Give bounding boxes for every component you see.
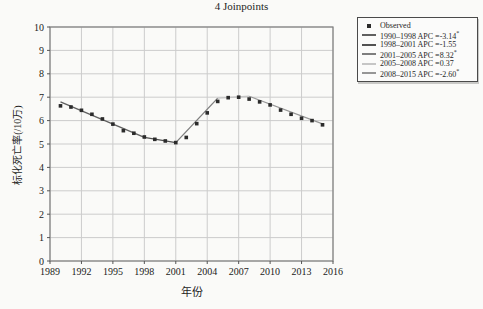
observed-point	[300, 116, 304, 120]
observed-point	[69, 105, 73, 109]
legend-label: Observed	[380, 21, 411, 30]
significance-asterisk: *	[456, 68, 459, 74]
observed-point	[226, 96, 230, 100]
observed-point	[268, 103, 272, 107]
joinpoint-figure: 4 Joinpoints 标化死亡率(/10万) 198919921995199…	[0, 0, 483, 309]
legend-label: 2001–2005 APC =8.32*	[380, 49, 457, 60]
significance-asterisk: *	[454, 49, 457, 55]
observed-point	[90, 112, 94, 116]
x-tick-label: 2004	[197, 266, 217, 277]
legend-label: 1998–2001 APC =-1.55	[380, 40, 456, 49]
observed-point	[111, 122, 115, 126]
y-tick-label: 9	[39, 45, 44, 56]
observed-point	[289, 112, 293, 116]
x-tick-label: 2001	[166, 266, 186, 277]
x-tick-label: 1989	[40, 266, 60, 277]
x-tick-label: 2016	[323, 266, 343, 277]
observed-point	[310, 119, 314, 123]
y-tick-label: 0	[39, 256, 44, 267]
observed-point	[195, 122, 199, 126]
apc-segment	[144, 137, 175, 142]
y-tick-label: 8	[39, 68, 44, 79]
observed-point	[237, 95, 241, 99]
observed-point	[174, 141, 178, 145]
line-swatch-icon	[362, 72, 376, 74]
x-tick-label: 1998	[134, 266, 154, 277]
legend-box: Observed1990–1998 APC =-3.14*1998–2001 A…	[357, 17, 478, 82]
observed-point	[205, 111, 209, 115]
y-tick-label: 5	[39, 139, 44, 150]
y-tick-label: 4	[39, 162, 44, 173]
observed-point	[216, 100, 220, 104]
observed-point	[101, 117, 105, 121]
y-tick-label: 3	[39, 185, 44, 196]
observed-point	[143, 135, 147, 139]
observed-point	[153, 138, 157, 142]
y-tick-label: 6	[39, 115, 44, 126]
y-tick-label: 10	[34, 22, 44, 33]
x-tick-label: 1992	[71, 266, 91, 277]
legend-item-segment: 2008–2015 APC =-2.60*	[362, 69, 473, 79]
observed-point	[59, 104, 63, 108]
observed-point	[80, 109, 84, 113]
y-tick-label: 7	[39, 92, 44, 103]
observed-point	[163, 139, 167, 143]
line-swatch-icon	[362, 44, 376, 46]
legend-item-segment: 1990–1998 APC =-3.14*	[362, 31, 473, 41]
x-tick-label: 2010	[260, 266, 280, 277]
x-axis-label: 年份	[50, 283, 333, 299]
observed-point	[258, 100, 262, 104]
line-swatch-icon	[362, 63, 376, 65]
legend-label: 2005–2008 APC =0.37	[380, 59, 454, 68]
legend-label: 2008–2015 APC =-2.60*	[380, 68, 459, 79]
observed-point	[132, 131, 136, 135]
line-swatch-icon	[362, 34, 376, 36]
observed-point	[321, 123, 325, 127]
x-tick-label: 2007	[229, 266, 249, 277]
x-tick-label: 2013	[292, 266, 312, 277]
observed-marker-icon	[362, 24, 376, 28]
x-tick-label: 1995	[103, 266, 123, 277]
significance-asterisk: *	[456, 30, 459, 36]
observed-point	[184, 136, 188, 140]
observed-point	[122, 129, 126, 133]
observed-point	[279, 108, 283, 112]
legend-item-segment: 2001–2005 APC =8.32*	[362, 50, 473, 60]
observed-point	[247, 97, 251, 101]
line-swatch-icon	[362, 53, 376, 55]
legend-label: 1990–1998 APC =-3.14*	[380, 30, 459, 41]
y-tick-label: 1	[39, 232, 44, 243]
y-tick-label: 2	[39, 209, 44, 220]
